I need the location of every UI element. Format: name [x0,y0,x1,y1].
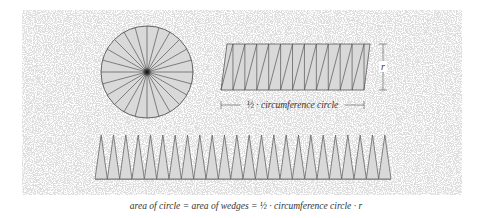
half-circumference-label: ½ · circumference circle [247,100,339,110]
radius-label: r [381,61,385,72]
speckled-background [22,10,462,195]
area-formula-caption: area of circle = area of wedges = ½ · ci… [130,201,363,211]
wedge-area-diagram: r ½ · circumference circle area of circl… [0,0,481,218]
sliced-circle [101,26,193,118]
rearranged-wedges-parallelogram [221,44,370,90]
